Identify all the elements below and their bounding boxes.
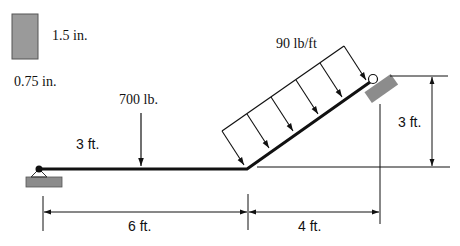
extension-lines xyxy=(43,76,450,231)
dim-label-3ft: 3 ft. xyxy=(398,114,421,130)
cross-section-rect xyxy=(12,14,38,59)
point-load-label: 700 lb. xyxy=(119,92,158,107)
point-load: 700 lb. 3 ft. xyxy=(76,92,158,166)
cross-section-width-label: 0.75 in. xyxy=(14,74,56,89)
beam xyxy=(39,80,373,169)
dim-label-4ft: 4 ft. xyxy=(298,218,321,234)
cross-section-height-label: 1.5 in. xyxy=(52,28,87,43)
beam-diagram: 1.5 in. 0.75 in. 90 lb/ft 700 lb. 3 ft. xyxy=(0,0,460,246)
right-roller-support xyxy=(364,74,398,103)
distributed-load-label: 90 lb/ft xyxy=(276,36,317,51)
dim-label-6ft: 6 ft. xyxy=(128,218,151,234)
cross-section: 1.5 in. 0.75 in. xyxy=(12,14,87,89)
point-load-position-label: 3 ft. xyxy=(76,136,99,152)
